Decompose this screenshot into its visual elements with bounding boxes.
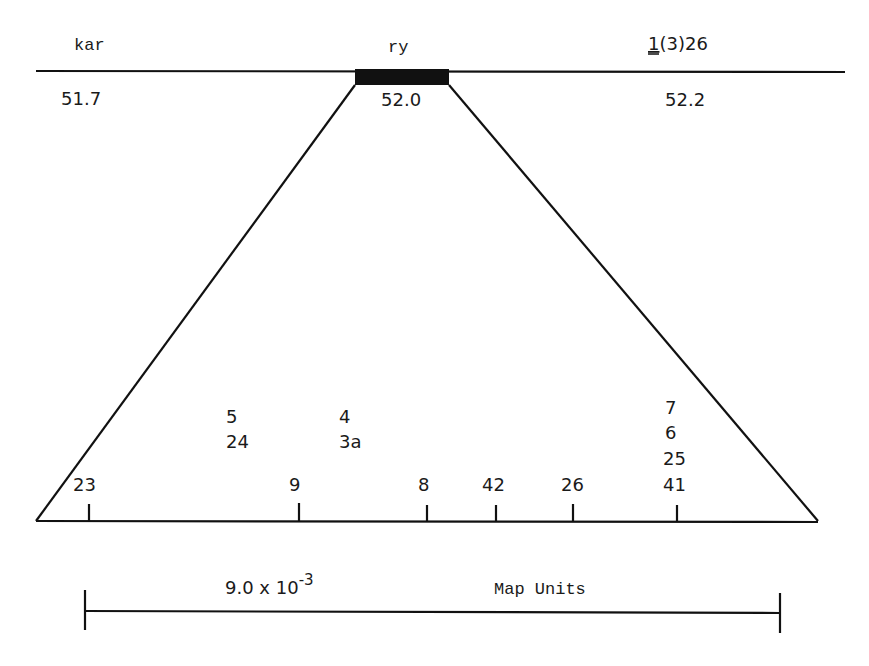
locus-ry-name: ry — [388, 38, 408, 57]
fine-map-baseline — [36, 521, 818, 522]
group-label-6: 6 — [665, 422, 676, 443]
locus-kar-position: 51.7 — [61, 88, 101, 109]
site-label-42: 42 — [482, 474, 505, 495]
site-label-41: 41 — [663, 474, 686, 495]
locus-l326-underlined: 1 — [648, 33, 659, 54]
locus-l326-position: 52.2 — [665, 89, 705, 110]
site-ticks — [89, 503, 677, 521]
scale-bar-exponent: -3 — [299, 571, 314, 589]
locus-l326-rest: (3)26 — [659, 33, 707, 54]
scale-bar-units: Map Units — [494, 580, 586, 599]
site-label-26: 26 — [561, 474, 584, 495]
locus-ry-position: 52.0 — [381, 89, 421, 110]
scale-bar-value: 9.0 x 10-3 — [225, 571, 314, 598]
site-label-23: 23 — [73, 474, 96, 495]
group-label-25: 25 — [663, 448, 686, 469]
scale-bar-line — [85, 611, 780, 613]
expansion-right-edge — [449, 85, 818, 521]
locus-kar-name: kar — [74, 36, 105, 55]
group-label-5: 5 — [226, 406, 237, 427]
group-label-4: 4 — [339, 406, 350, 427]
group-label-7: 7 — [665, 397, 676, 418]
site-label-9: 9 — [289, 474, 300, 495]
site-label-8: 8 — [418, 474, 429, 495]
group-label-24: 24 — [226, 431, 249, 452]
locus-l326-name: 1(3)26 — [648, 33, 708, 54]
genetic-map-diagram: kar ry 1(3)26 51.7 52.0 52.2 23 9 8 42 2… — [0, 0, 869, 666]
expansion-left-edge — [36, 85, 355, 521]
group-label-3a: 3a — [339, 431, 361, 452]
ry-region-bar — [355, 69, 449, 85]
